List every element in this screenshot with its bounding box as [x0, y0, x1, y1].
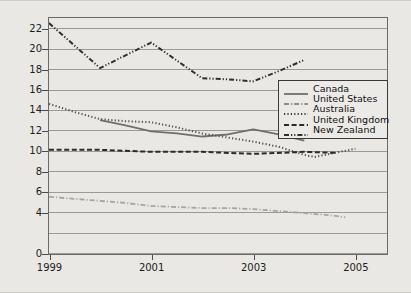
legend-swatch-icon: [283, 84, 309, 94]
chart-legend: CanadaUnited StatesAustraliaUnited Kingd…: [278, 80, 388, 139]
y-tick-label: 6: [20, 187, 42, 197]
y-tick-label: 22: [20, 24, 42, 34]
series-line-new-zealand: [49, 23, 304, 81]
y-tick-label: 10: [20, 146, 42, 156]
legend-label: Australia: [313, 104, 355, 114]
y-tick-label: 14: [20, 105, 42, 115]
page-rule-top: [0, 0, 411, 1]
series-line-united-states: [49, 197, 345, 217]
y-tick-label: 8: [20, 167, 42, 177]
legend-swatch-icon: [283, 125, 309, 135]
legend-item-new-zealand[interactable]: New Zealand: [283, 125, 383, 135]
legend-swatch-icon: [283, 115, 309, 125]
y-tick-label: 0: [20, 249, 42, 259]
legend-swatch-icon: [283, 104, 309, 114]
legend-swatch-icon: [283, 94, 309, 104]
legend-label: New Zealand: [313, 125, 375, 135]
y-tick-label: 16: [20, 85, 42, 95]
y-tick-label: 4: [20, 208, 42, 218]
x-tick-label: 1999: [37, 262, 62, 273]
y-tick-label: 12: [20, 126, 42, 136]
y-tick-label: 20: [20, 44, 42, 54]
x-tick-label: 2001: [139, 262, 164, 273]
chart-figure: Rate per 100 000 population 046810121416…: [0, 0, 411, 293]
series-line-canada: [100, 120, 304, 140]
x-tick-label: 2005: [343, 262, 368, 273]
y-tick-label: 18: [20, 65, 42, 75]
x-tick-label: 2003: [241, 262, 266, 273]
